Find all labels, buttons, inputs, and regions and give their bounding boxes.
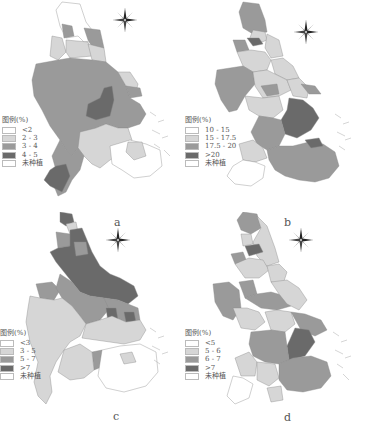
legend-item: 未种植 xyxy=(185,160,236,168)
choropleth-map-b xyxy=(183,0,373,215)
legend-item: 17.5 - 20 xyxy=(185,143,236,151)
legend-swatch xyxy=(2,135,16,142)
legend-title: 图例(%) xyxy=(185,330,226,337)
legend-item: 未种植 xyxy=(185,373,226,381)
choropleth-map-c xyxy=(0,212,186,412)
panel-label-a: a xyxy=(114,216,121,229)
choropleth-map-a xyxy=(0,0,186,215)
legend-item: 未种植 xyxy=(2,160,43,168)
legend-swatch xyxy=(2,152,16,159)
legend-item: 6 - 7 xyxy=(185,356,226,364)
compass-rose-icon xyxy=(104,226,132,254)
legend-swatch xyxy=(0,348,14,355)
legend-swatch xyxy=(185,348,199,355)
legend-item: 5 - 7 xyxy=(0,356,41,364)
legend-swatch xyxy=(2,143,16,150)
legend-title: 图例(%) xyxy=(185,117,236,124)
legend-swatch xyxy=(185,143,199,150)
legend-item: 3 - 4 xyxy=(2,143,43,151)
legend-a: 图例(%) <2 2 - 3 3 - 4 4 - 5 未种植 xyxy=(2,117,43,168)
choropleth-map-d xyxy=(183,212,373,412)
legend-title: 图例(%) xyxy=(0,330,41,337)
legend-swatch xyxy=(0,373,14,380)
legend-swatch xyxy=(185,135,199,142)
legend-swatch xyxy=(2,127,16,134)
legend-swatch xyxy=(0,365,14,372)
legend-c: 图例(%) <3 3 - 5 5 - 7 >7 未种植 xyxy=(0,330,41,381)
legend-swatch xyxy=(185,373,199,380)
legend-swatch xyxy=(0,340,14,347)
panel-label-b: b xyxy=(284,216,291,229)
legend-swatch xyxy=(185,152,199,159)
legend-swatch xyxy=(185,365,199,372)
map-panel-b: 图例(%) 10 - 15 15 - 17.5 17.5 - 20 >20 未种… xyxy=(183,0,373,215)
legend-d: 图例(%) <5 5 - 6 6 - 7 >7 未种植 xyxy=(185,330,226,381)
map-panel-c: 图例(%) <3 3 - 5 5 - 7 >7 未种植 xyxy=(0,212,186,412)
compass-rose-icon xyxy=(111,6,139,34)
legend-b: 图例(%) 10 - 15 15 - 17.5 17.5 - 20 >20 未种… xyxy=(185,117,236,168)
legend-item: 未种植 xyxy=(0,373,41,381)
panel-label-d: d xyxy=(284,411,291,424)
legend-title: 图例(%) xyxy=(2,117,43,124)
legend-swatch xyxy=(0,356,14,363)
compass-rose-icon xyxy=(287,226,315,254)
legend-swatch xyxy=(185,160,199,167)
legend-swatch xyxy=(2,160,16,167)
legend-swatch xyxy=(185,340,199,347)
panel-label-c: c xyxy=(113,410,119,423)
map-panel-a: 图例(%) <2 2 - 3 3 - 4 4 - 5 未种植 xyxy=(0,0,186,215)
legend-swatch xyxy=(185,127,199,134)
compass-rose-icon xyxy=(292,18,320,46)
legend-swatch xyxy=(185,356,199,363)
map-panel-d: 图例(%) <5 5 - 6 6 - 7 >7 未种植 xyxy=(183,212,373,412)
